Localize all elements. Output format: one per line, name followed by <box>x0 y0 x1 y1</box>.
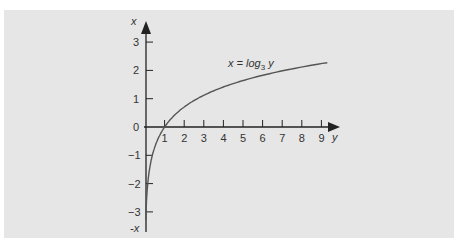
x-tick-label: 7 <box>279 132 285 144</box>
x-tick-label: 8 <box>299 132 305 144</box>
x-tick-label: 9 <box>318 132 324 144</box>
y-tick-label: −2 <box>128 178 141 190</box>
y-tick-label: 2 <box>133 64 139 76</box>
vertical-axis-arrow-icon <box>141 21 151 34</box>
x-tick-label: 4 <box>220 132 226 144</box>
x-tick-label: 5 <box>240 132 246 144</box>
curve-label: x = log3 y <box>227 57 275 72</box>
y-tick-label: −1 <box>128 149 141 161</box>
y-tick-label: 1 <box>133 93 139 105</box>
x-tick-label: 3 <box>201 132 207 144</box>
y-tick-label: −3 <box>128 206 141 218</box>
x-tick-label: 6 <box>260 132 266 144</box>
x-axis-label: y <box>331 131 339 143</box>
x-tick-label: 1 <box>162 132 168 144</box>
y-axis-label: x <box>130 15 137 27</box>
log-chart: 123456789 3210−1−2−3 y x -x x = log3 y <box>0 0 458 247</box>
x-tick-label: 2 <box>181 132 187 144</box>
y-tick-label: 3 <box>133 36 139 48</box>
y-tick-label: 0 <box>133 121 139 133</box>
y-axis-negative-label: -x <box>130 222 140 234</box>
